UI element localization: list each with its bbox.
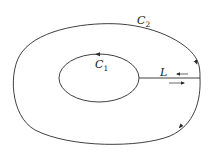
cut-arrow-left-icon — [176, 72, 188, 75]
contour-diagram: C2 C1 L — [0, 0, 210, 157]
outer-contour-c2 — [13, 24, 200, 145]
label-l: L — [159, 66, 167, 79]
label-c2: C2 — [137, 14, 150, 29]
label-c1: C1 — [95, 58, 108, 73]
cut-arrow-right-icon — [169, 81, 185, 84]
